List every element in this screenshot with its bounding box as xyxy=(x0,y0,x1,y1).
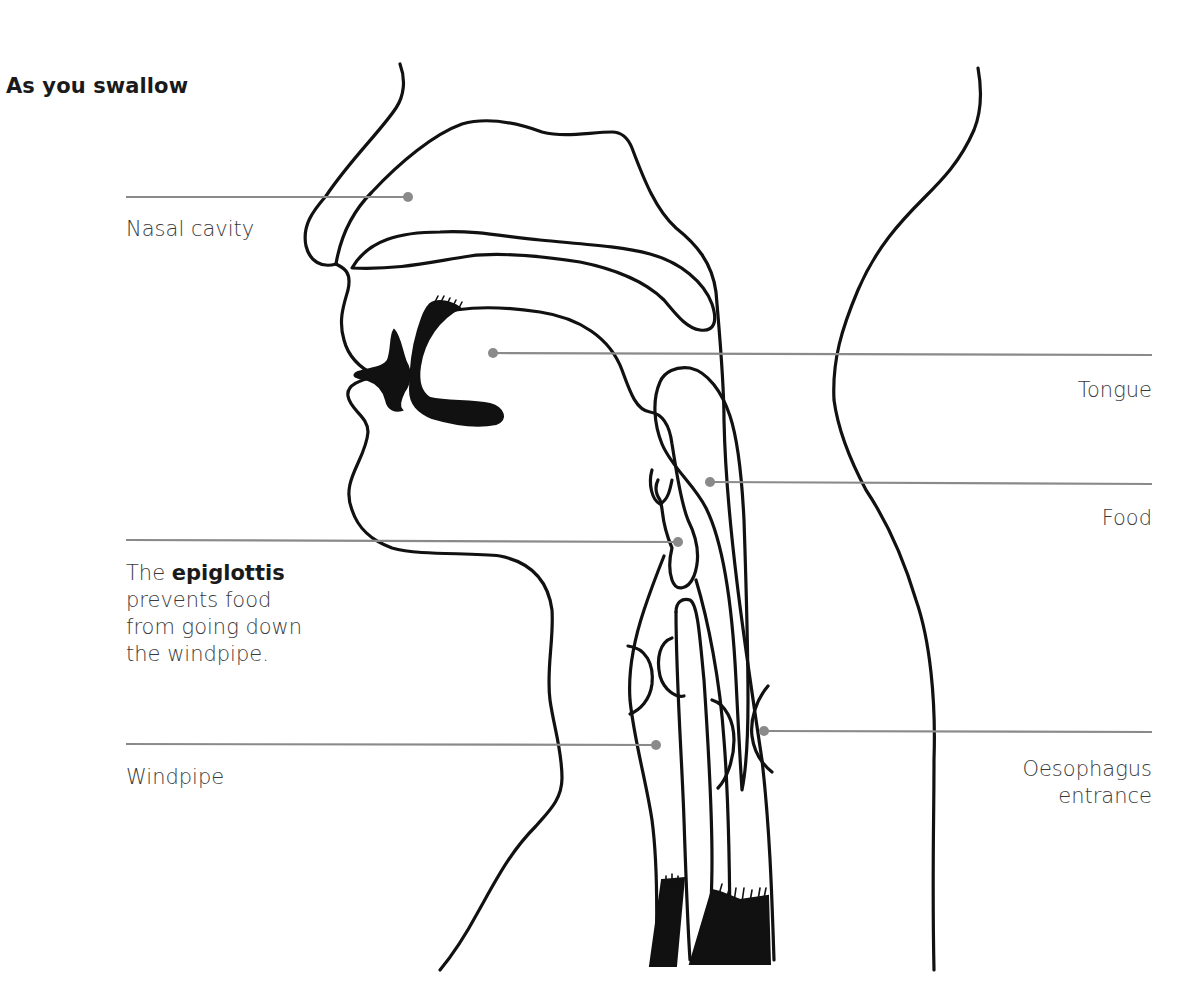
oesophagus-line-2: entrance xyxy=(1022,783,1152,810)
leader-dot-food xyxy=(705,477,715,487)
leader-dot-nasal-cavity xyxy=(403,192,413,202)
label-nasal-cavity: Nasal cavity xyxy=(126,216,254,243)
leader-dot-oesophagus xyxy=(759,726,769,736)
epiglottis-line-4: the windpipe. xyxy=(126,641,302,668)
label-tongue: Tongue xyxy=(1078,377,1152,404)
leader-dot-epiglottis xyxy=(673,537,683,547)
leader-dot-tongue xyxy=(488,348,498,358)
epiglottis-line-2: prevents food xyxy=(126,587,302,614)
leader-windpipe xyxy=(126,744,656,745)
label-windpipe: Windpipe xyxy=(126,764,224,791)
back-of-neck-outline xyxy=(834,68,981,970)
tongue-tip-fill xyxy=(410,301,503,426)
leader-food xyxy=(710,482,1152,484)
swallowing-anatomy-diagram xyxy=(0,0,1201,1002)
label-epiglottis: The epiglottis prevents food from going … xyxy=(126,560,302,668)
tongue-outline xyxy=(432,308,697,588)
label-food: Food xyxy=(1102,505,1152,532)
leader-tongue xyxy=(493,353,1152,355)
epiglottis-line-1: The epiglottis xyxy=(126,560,302,587)
vocal-fold-mid xyxy=(659,638,685,696)
nose-bridge-outline xyxy=(305,64,403,265)
oesophagus-line-1: Oesophagus xyxy=(1022,756,1152,783)
upper-lip-fill xyxy=(354,330,409,411)
oesophagus-bottom-fill xyxy=(690,890,770,964)
epiglottis-term: epiglottis xyxy=(172,561,285,585)
epiglottis-outline xyxy=(650,470,672,504)
leader-dot-windpipe xyxy=(651,740,661,750)
label-oesophagus-entrance: Oesophagus entrance xyxy=(1022,756,1152,810)
leader-oesophagus xyxy=(764,731,1152,732)
leader-epiglottis xyxy=(126,540,678,542)
palate-outline xyxy=(352,232,715,331)
epiglottis-line-3: from going down xyxy=(126,614,302,641)
